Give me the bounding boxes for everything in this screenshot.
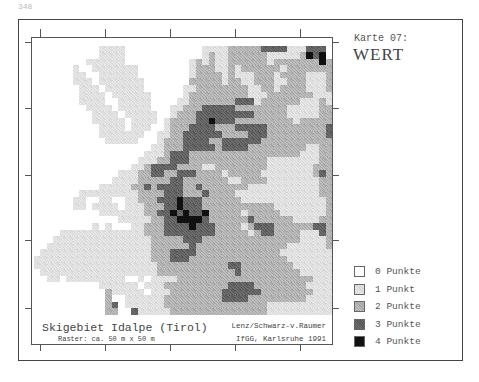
coordinate-tick	[40, 29, 41, 37]
map-panel: Skigebiet Idalpe (Tirol) Raster: ca. 50 …	[31, 37, 333, 345]
raster-cell	[326, 46, 332, 53]
map-title: Skigebiet Idalpe (Tirol)	[42, 321, 208, 334]
legend-swatch-0-icon	[354, 266, 365, 277]
legend-item-2: 2 Punkte	[354, 298, 421, 316]
coordinate-tick	[235, 345, 236, 351]
legend-item-1: 1 Punkt	[354, 281, 421, 299]
raster-cell	[326, 210, 332, 217]
raster-resolution: Raster: ca. 50 m x 50 m	[58, 335, 155, 343]
raster-cell	[326, 243, 332, 250]
raster-cell	[326, 262, 332, 269]
sheet-title: WERT	[353, 45, 404, 65]
legend-label: 1 Punkt	[375, 284, 415, 295]
raster-cell	[326, 216, 332, 223]
raster-cell	[326, 276, 332, 283]
sheet-number: Karte 07:	[354, 33, 408, 44]
coordinate-tick	[333, 175, 339, 176]
coordinate-tick	[333, 108, 339, 109]
raster-cell	[326, 72, 332, 79]
raster-cell	[326, 124, 332, 131]
coordinate-tick	[300, 29, 301, 37]
legend-item-0: 0 Punkte	[354, 263, 421, 281]
coordinate-tick	[300, 345, 301, 351]
coordinate-tick	[170, 29, 171, 37]
legend-label: 2 Punkte	[375, 301, 421, 312]
raster-cell	[326, 78, 332, 85]
raster-cell	[326, 92, 332, 99]
raster-cell	[326, 308, 332, 315]
coordinate-tick	[235, 29, 236, 37]
coordinate-tick	[105, 345, 106, 351]
legend-label: 3 Punkte	[375, 319, 421, 330]
legend-item-4: 4 Punkte	[354, 333, 421, 351]
raster-cell	[326, 170, 332, 177]
raster-cell	[326, 118, 332, 125]
map-credit-institute: IfGG, Karlsruhe 1991	[236, 335, 326, 343]
raster-cell	[326, 164, 332, 171]
raster-cell	[326, 105, 332, 112]
legend-label: 0 Punkte	[375, 266, 421, 277]
map-credit-authors: Lenz/Schwarz-v.Raumer	[231, 322, 326, 330]
raster-map	[34, 39, 332, 315]
coordinate-tick	[333, 240, 339, 241]
coordinate-tick	[40, 345, 41, 351]
raster-cell	[326, 302, 332, 309]
raster-cell	[326, 230, 332, 237]
page-number: 348	[18, 2, 32, 11]
coordinate-tick	[333, 42, 339, 43]
legend-swatch-1-icon	[354, 284, 365, 295]
raster-cell	[326, 197, 332, 204]
coordinate-tick	[105, 29, 106, 37]
legend-swatch-2-icon	[354, 301, 365, 312]
coordinate-tick	[170, 345, 171, 351]
raster-cell	[326, 256, 332, 263]
raster-cell	[326, 138, 332, 145]
legend-swatch-4-icon	[354, 336, 365, 347]
legend-swatch-3-icon	[354, 319, 365, 330]
legend-label: 4 Punkte	[375, 336, 421, 347]
raster-cell	[326, 289, 332, 296]
raster-cell	[326, 184, 332, 191]
legend-item-3: 3 Punkte	[354, 316, 421, 334]
raster-cell	[326, 151, 332, 158]
legend: 0 Punkte 1 Punkt 2 Punkte 3 Punkte 4 Pun…	[354, 263, 421, 351]
coordinate-tick	[333, 308, 339, 309]
raster-cell	[326, 59, 332, 66]
